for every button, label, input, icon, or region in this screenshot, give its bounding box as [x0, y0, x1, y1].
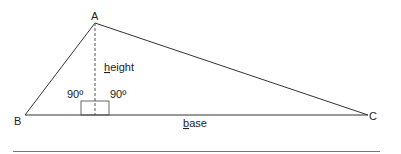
side-ac	[95, 23, 368, 115]
height-label: height	[104, 61, 134, 73]
vertex-b-label: B	[14, 115, 21, 127]
angle-right-label: 90º	[110, 88, 126, 100]
height-label-rest: eight	[110, 61, 134, 73]
base-label-rest: ase	[189, 117, 207, 129]
vertex-c-label: C	[369, 110, 377, 122]
angle-left-label: 90º	[67, 88, 83, 100]
vertex-a-label: A	[91, 10, 99, 22]
triangle-diagram: A B C height 90º 90º base	[0, 0, 401, 154]
base-label: base	[183, 117, 207, 129]
